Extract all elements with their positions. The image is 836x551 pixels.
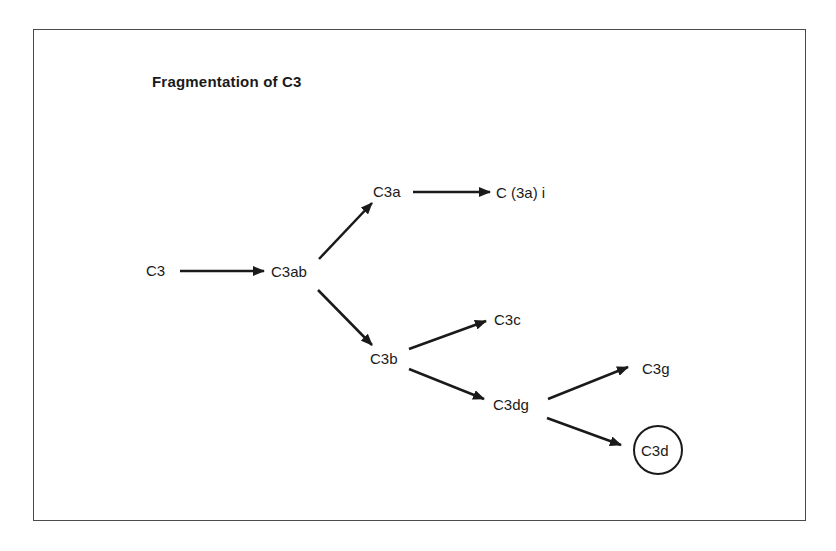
- arrow-c3b-to-c3dg: [409, 369, 484, 399]
- node-c3ab: C3ab: [271, 264, 307, 279]
- node-c3dg: C3dg: [493, 397, 529, 412]
- arrows-layer: [0, 0, 836, 551]
- node-c3b: C3b: [370, 351, 398, 366]
- node-c3c: C3c: [494, 312, 521, 327]
- arrow-c3ab-to-c3a: [319, 203, 372, 259]
- node-c3a: C3a: [373, 184, 401, 199]
- node-c3g: C3g: [642, 361, 670, 376]
- arrow-c3dg-to-c3g: [548, 367, 628, 399]
- node-c3ai: C (3a) i: [496, 185, 545, 200]
- node-c3d: C3d: [641, 443, 669, 458]
- arrow-c3ab-to-c3b: [318, 290, 372, 345]
- arrow-c3b-to-c3c: [409, 321, 486, 349]
- arrow-c3dg-to-c3d: [547, 418, 621, 445]
- node-c3: C3: [146, 263, 165, 278]
